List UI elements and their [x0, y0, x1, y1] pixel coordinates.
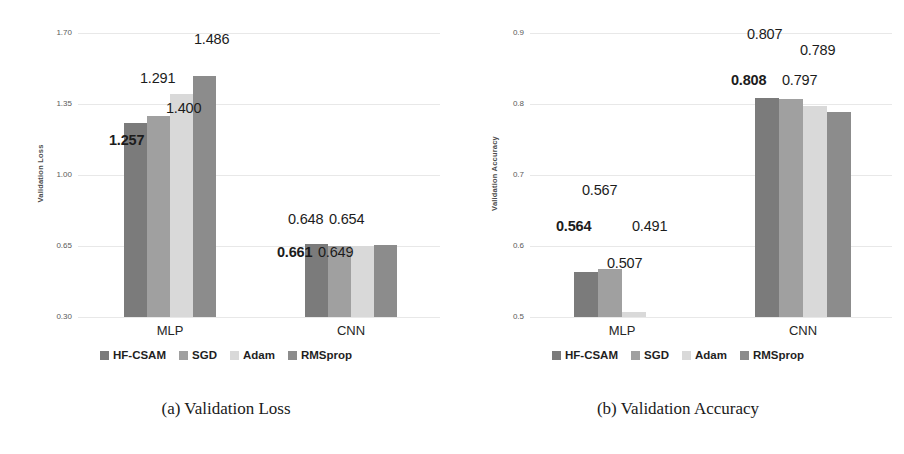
- legend-label: RMSprop: [301, 349, 352, 361]
- legend: HF-CSAMSGDAdamRMSprop: [0, 349, 452, 361]
- bar-value-label-cnn-hf-csam: 0.808: [731, 72, 766, 88]
- bar-value-label-mlp-adam: 1.400: [166, 100, 201, 116]
- legend-item-adam: Adam: [682, 349, 727, 361]
- bar-cnn-rmsprop: [374, 245, 397, 317]
- legend-label: Adam: [695, 349, 727, 361]
- legend-label: HF-CSAM: [565, 349, 618, 361]
- legend: HF-CSAMSGDAdamRMSprop: [452, 349, 904, 361]
- legend-item-rmsprop: RMSprop: [740, 349, 804, 361]
- legend-swatch-sgd-icon: [631, 351, 640, 360]
- legend-item-rmsprop: RMSprop: [288, 349, 352, 361]
- panel-validation-accuracy: Validation Accuracy 0.50.60.70.80.9 MLPC…: [452, 0, 904, 454]
- y-axis-tick-label: 0.65: [36, 241, 72, 250]
- legend-swatch-adam-icon: [230, 351, 239, 360]
- bar-value-label-cnn-adam: 0.797: [782, 72, 817, 88]
- bar-mlp-hf-csam: [124, 123, 147, 317]
- panel-caption: (b) Validation Accuracy: [452, 399, 904, 419]
- bar-value-label-mlp-rmsprop: 1.486: [194, 31, 229, 47]
- x-axis-label-cnn: CNN: [763, 323, 843, 338]
- bar-value-label-mlp-sgd: 0.567: [582, 182, 617, 198]
- y-axis-tick-label: 0.5: [488, 312, 524, 321]
- bar-value-label-mlp-rmsprop: 0.491: [632, 218, 667, 234]
- bar-cnn-sgd: [779, 99, 803, 317]
- legend-label: HF-CSAM: [113, 349, 166, 361]
- legend-item-sgd: SGD: [631, 349, 669, 361]
- bar-cnn-adam: [351, 246, 374, 317]
- y-axis-tick-label: 0.30: [36, 312, 72, 321]
- legend-label: SGD: [644, 349, 669, 361]
- plot-area: [78, 33, 440, 317]
- bar-cnn-adam: [803, 106, 827, 317]
- legend-label: SGD: [192, 349, 217, 361]
- legend-item-hf-csam: HF-CSAM: [100, 349, 166, 361]
- bar-chart-validation-loss: Validation Loss 0.300.651.001.351.70 MLP…: [0, 0, 452, 340]
- x-axis-label-mlp: MLP: [130, 323, 210, 338]
- y-axis-tick-label: 1.00: [36, 170, 72, 179]
- bar-mlp-adam: [622, 312, 646, 317]
- bar-value-label-mlp-adam: 0.507: [607, 255, 642, 271]
- y-axis-tick-label: 0.7: [488, 170, 524, 179]
- bar-mlp-sgd: [147, 116, 170, 317]
- legend-label: RMSprop: [753, 349, 804, 361]
- bar-mlp-adam: [170, 94, 193, 317]
- bar-chart-validation-accuracy: Validation Accuracy 0.50.60.70.80.9 MLPC…: [452, 0, 904, 340]
- x-axis-label-mlp: MLP: [582, 323, 662, 338]
- legend-swatch-rmsprop-icon: [288, 351, 297, 360]
- plot-area: [530, 33, 892, 317]
- legend-item-adam: Adam: [230, 349, 275, 361]
- bar-mlp-sgd: [598, 269, 622, 317]
- bar-cnn-hf-csam: [755, 98, 779, 317]
- grid-line: [78, 317, 440, 318]
- bar-value-label-cnn-rmsprop: 0.789: [800, 42, 835, 58]
- bar-value-label-cnn-adam: 0.649: [318, 244, 353, 260]
- legend-item-sgd: SGD: [179, 349, 217, 361]
- figure-validation-comparison: Validation Loss 0.300.651.001.351.70 MLP…: [0, 0, 904, 454]
- legend-swatch-sgd-icon: [179, 351, 188, 360]
- y-axis-tick-label: 0.9: [488, 28, 524, 37]
- bar-group-cnn: [305, 33, 397, 317]
- bar-value-label-cnn-sgd: 0.648: [288, 211, 323, 227]
- bar-value-label-cnn-rmsprop: 0.654: [329, 211, 364, 227]
- legend-label: Adam: [243, 349, 275, 361]
- y-axis-tick-label: 0.6: [488, 241, 524, 250]
- legend-swatch-adam-icon: [682, 351, 691, 360]
- bar-value-label-cnn-hf-csam: 0.661: [277, 244, 312, 260]
- grid-line: [530, 317, 892, 318]
- bar-value-label-mlp-hf-csam: 0.564: [556, 218, 591, 234]
- panel-validation-loss: Validation Loss 0.300.651.001.351.70 MLP…: [0, 0, 452, 454]
- bar-value-label-mlp-hf-csam: 1.257: [109, 132, 144, 148]
- y-axis-tick-label: 1.70: [36, 28, 72, 37]
- bar-cnn-rmsprop: [827, 112, 851, 317]
- x-axis-label-cnn: CNN: [311, 323, 391, 338]
- bar-group-mlp: [574, 33, 670, 317]
- panel-caption: (a) Validation Loss: [0, 399, 452, 419]
- y-axis-tick-label: 1.35: [36, 99, 72, 108]
- bar-value-label-mlp-sgd: 1.291: [140, 70, 175, 86]
- y-axis-tick-label: 0.8: [488, 99, 524, 108]
- bar-mlp-hf-csam: [574, 272, 598, 317]
- legend-swatch-hf-csam-icon: [100, 351, 109, 360]
- legend-swatch-hf-csam-icon: [552, 351, 561, 360]
- legend-swatch-rmsprop-icon: [740, 351, 749, 360]
- legend-item-hf-csam: HF-CSAM: [552, 349, 618, 361]
- bar-value-label-cnn-sgd: 0.807: [747, 26, 782, 42]
